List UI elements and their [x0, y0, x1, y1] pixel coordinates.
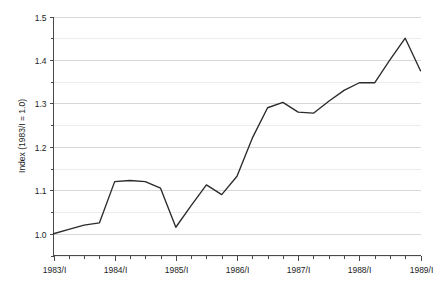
x-tick-label: 1987/I — [287, 265, 311, 275]
x-tick-label: 1986/I — [226, 265, 250, 275]
x-tick-label: 1989/I — [410, 265, 434, 275]
y-axis-tick-labels: 1.51.41.31.21.11.0 — [35, 13, 47, 240]
y-tick-label: 1.1 — [35, 186, 47, 196]
y-axis-title: Index (1983/I = 1.0) — [17, 99, 27, 173]
chart-canvas: 1.51.41.31.21.11.0 1983/I1984/I1985/I198… — [0, 0, 445, 288]
data-series-line — [54, 38, 421, 234]
y-tick-label: 1.3 — [35, 99, 47, 109]
x-tick-label: 1988/I — [348, 265, 372, 275]
y-tick-label: 1.5 — [35, 13, 47, 23]
y-tick-label: 1.2 — [35, 143, 47, 153]
x-tick-label: 1984/I — [104, 265, 128, 275]
y-tick-label: 1.4 — [35, 56, 47, 66]
y-axis-ticks — [50, 18, 54, 257]
x-tick-label: 1985/I — [165, 265, 189, 275]
y-tick-label: 1.0 — [35, 230, 47, 240]
x-tick-label: 1983/I — [43, 265, 67, 275]
line-chart: 1.51.41.31.21.11.0 1983/I1984/I1985/I198… — [0, 0, 445, 288]
x-axis-tick-labels: 1983/I1984/I1985/I1986/I1987/I1988/I1989… — [43, 265, 434, 275]
